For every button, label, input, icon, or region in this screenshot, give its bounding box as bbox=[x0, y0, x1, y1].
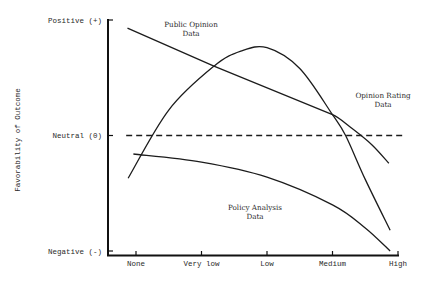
series-label-public-opinion: Public Opinion Data bbox=[164, 20, 218, 38]
x-ticks: NoneVery lowLowMediumHigh bbox=[127, 251, 407, 268]
opinion-rating-label-line-2: Data bbox=[374, 100, 392, 109]
series-label-policy-analysis: Policy Analysis Data bbox=[228, 203, 282, 221]
x-tick-label: Medium bbox=[319, 260, 347, 268]
series-group bbox=[126, 28, 404, 251]
y-ticks: Positive (+)Neutral (0)Negative (-) bbox=[48, 17, 113, 256]
policy-analysis-label-line-1: Policy Analysis bbox=[228, 203, 282, 212]
y-axis-label: Favorability of Outcome bbox=[14, 88, 22, 192]
x-tick-label: None bbox=[127, 260, 145, 268]
y-tick-label: Positive (+) bbox=[48, 17, 102, 25]
x-tick-label: Very low bbox=[183, 260, 220, 268]
public-opinion-label-line-1: Public Opinion bbox=[164, 20, 218, 29]
opinion-rating-label-line-1: Opinion Rating bbox=[355, 91, 411, 100]
series-label-opinion-rating: Opinion Rating Data bbox=[355, 91, 411, 109]
x-tick-label: Low bbox=[260, 260, 274, 268]
y-tick-label: Negative (-) bbox=[48, 248, 102, 256]
chart: Favorability of Outcome Positive (+)Neut… bbox=[0, 0, 432, 288]
public-opinion-label-line-2: Data bbox=[182, 29, 200, 38]
y-tick-label: Neutral (0) bbox=[52, 132, 102, 140]
policy-analysis-label-line-2: Data bbox=[246, 212, 264, 221]
x-tick-label: High bbox=[389, 260, 407, 268]
